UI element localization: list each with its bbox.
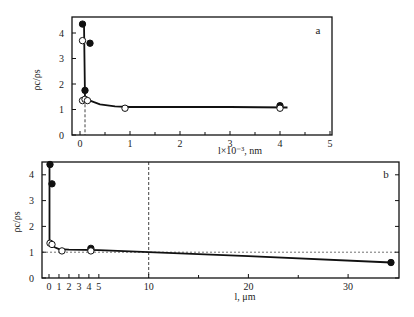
open-data-point [49,241,55,247]
x-axis-label: l×10⁻³, nm [218,145,262,156]
y-tick-label: 2 [59,79,64,90]
x-axis-label: l, μm [235,291,256,302]
x-tick-label: 4 [278,138,283,149]
filled-data-point [388,259,394,265]
filled-data-point [87,40,93,46]
y-tick-label: 4 [29,169,34,180]
y-tick-label: 1 [29,247,34,258]
open-data-point [79,37,85,43]
chart-canvas: 01234501234ρc/ρsl×10⁻³, nma 012345102030… [0,0,414,317]
filled-data-point [47,161,53,167]
y-tick-label: 2 [29,221,34,232]
x-tick-label: 1 [128,138,133,149]
filled-data-point [82,87,88,93]
y-tick-label: 4 [59,28,64,39]
panel-letter: a [316,24,321,36]
x-tick-label: 0 [78,138,83,149]
y-tick-label: 3 [59,53,64,64]
x-tick-label: 2 [178,138,183,149]
x-tick-label: 0 [47,281,52,292]
x-tick-label: 2 [66,281,71,292]
y-axis-label: ρc/ρs [31,69,42,90]
y-tick-label: 1 [59,104,64,115]
x-tick-label: 3 [76,281,81,292]
x-tick-label: 30 [343,281,353,292]
y-tick-label: 0 [59,130,64,141]
x-tick-label: 4 [86,281,91,292]
y-tick-label: 3 [29,195,34,206]
panel-b: 01234510203001234ρc/ρsl, μmb [11,161,399,302]
plot-frame [72,17,332,135]
fit-curve [50,165,392,263]
filled-data-point [49,181,55,187]
y-axis-label: ρc/ρs [11,211,22,232]
open-data-point [277,105,283,111]
x-tick-label: 1 [56,281,61,292]
x-tick-label: 10 [144,281,154,292]
open-data-point [84,97,90,103]
open-data-point [88,248,94,254]
open-data-point [59,248,65,254]
filled-data-point [79,21,85,27]
fit-curve [84,23,288,108]
open-data-point [122,105,128,111]
y-tick-label: 0 [29,273,34,284]
panel-a: 01234501234ρc/ρsl×10⁻³, nma [31,17,333,156]
figure: 01234501234ρc/ρsl×10⁻³, nma 012345102030… [0,0,414,317]
x-tick-label: 5 [328,138,333,149]
x-tick-label: 5 [96,281,101,292]
panel-letter: b [383,168,389,180]
